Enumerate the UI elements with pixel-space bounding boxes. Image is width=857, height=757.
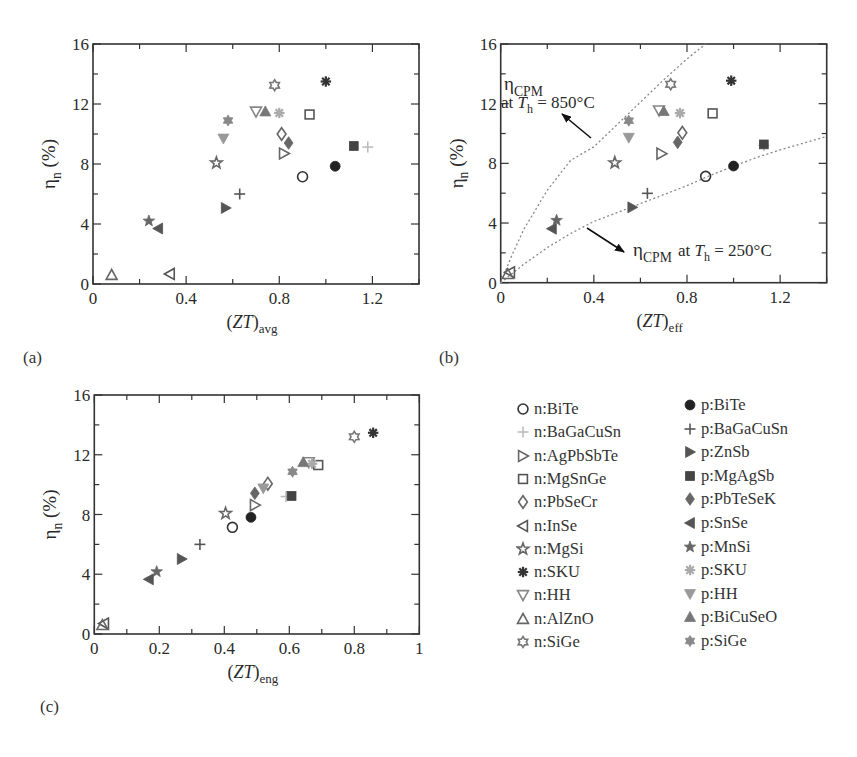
arrow-850C — [562, 114, 591, 138]
y-tick-label: 8 — [82, 506, 91, 525]
triangle-right-open-marker — [519, 450, 529, 461]
triangle-up-open-icon — [516, 608, 532, 630]
point-n-bagacusn — [362, 142, 373, 153]
legend-label: p:SKU — [701, 560, 747, 580]
legend-label: p:ZnSb — [701, 442, 750, 462]
x-axis-label: (ZT)eff — [637, 311, 684, 335]
ticks — [93, 44, 419, 284]
circle-filled-marker — [685, 400, 695, 410]
y-tick-label: 12 — [480, 95, 497, 114]
point-n-sige — [666, 79, 676, 90]
legend-label: n:AgPbSbTe — [534, 446, 618, 466]
y-tick-label: 0 — [488, 274, 497, 293]
point-p-bite — [246, 512, 256, 522]
point-p-bite — [729, 161, 739, 171]
legend-label: p:PbTeSeK — [701, 489, 776, 509]
legend-label: p:HH — [701, 584, 738, 604]
asterisk-icon — [683, 559, 699, 581]
plot-frame — [93, 44, 419, 284]
y-tick-label: 12 — [73, 446, 90, 465]
point-p-sige — [288, 466, 298, 477]
legend-p-column: p:BiTep:BaGaCuSnp:ZnSbp:MgAgSbp:PbTeSeKp… — [683, 394, 843, 654]
x-axis-label: (ZT)eng — [227, 662, 278, 686]
y-tick-label: 4 — [81, 215, 90, 234]
point-n-mgsnge — [305, 110, 314, 119]
triangle-right-filled-marker — [686, 447, 696, 458]
annotation-250C: ηCPM at Th = 250°C — [633, 239, 772, 265]
diamond-open-icon — [516, 491, 532, 513]
point-n-agpbsbte — [250, 500, 260, 511]
ticks — [501, 44, 827, 283]
star-open-marker — [517, 543, 529, 554]
triangle-right-open-icon — [516, 445, 532, 467]
point-p-pbtesek — [284, 137, 293, 150]
point-n-pbsecr — [678, 126, 687, 139]
x-tick-label: 0 — [496, 288, 505, 307]
y-tick-label: 16 — [72, 35, 89, 54]
star-open-icon — [516, 538, 532, 560]
panel-label-c: (c) — [40, 697, 59, 717]
hexagram-filled-icon — [683, 630, 699, 652]
point-n-mgsnge — [708, 109, 717, 118]
star-filled-icon — [683, 536, 699, 558]
figure: 00.40.81.20481216(ZT)avgηn (%) 00.40.81.… — [0, 0, 857, 757]
svg-text:ηn (%): ηn (%) — [39, 489, 65, 539]
x-tick-label: 0.2 — [149, 639, 170, 658]
x-tick-label: 1.2 — [362, 289, 383, 308]
legend: n:BiTen:BaGaCuSnn:AgPbSbTen:MgSnGen:PbSe… — [516, 398, 836, 658]
asterisk-marker — [518, 567, 528, 577]
point-p-pbtesek — [250, 487, 259, 500]
square-filled-icon — [683, 465, 699, 487]
point-n-sku — [726, 75, 736, 85]
y-axis-label: ηn (%) — [446, 138, 472, 188]
square-open-icon — [516, 468, 532, 490]
point-p-mnsi — [143, 215, 155, 226]
hexagram-open-marker — [518, 637, 528, 648]
square-open-marker — [519, 474, 528, 483]
legend-label: n:SKU — [534, 562, 580, 582]
plus-icon — [683, 418, 699, 440]
svg-text:at Th = 250°C: at Th = 250°C — [678, 241, 772, 264]
legend-label: n:PbSeCr — [534, 492, 597, 512]
legend-label: n:MgSi — [534, 539, 584, 559]
x-tick-label: 0.4 — [583, 288, 605, 307]
legend-label: p:BiTe — [701, 395, 746, 415]
point-n-pbsecr — [277, 128, 286, 141]
point-p-sige — [223, 115, 233, 126]
x-tick-label: 0.4 — [214, 639, 236, 658]
point-p-znsb — [628, 202, 638, 213]
point-p-mgagsb — [287, 492, 296, 501]
panel-c-plot: 00.20.40.60.810481216(ZT)engηn (%) — [0, 350, 470, 720]
y-tick-label: 4 — [82, 565, 91, 584]
point-p-mgagsb — [349, 142, 358, 151]
triangle-down-filled-icon — [683, 583, 699, 605]
triangle-left-open-marker — [518, 520, 528, 531]
triangle-up-filled-marker — [685, 612, 696, 622]
y-axis-label: ηn (%) — [39, 489, 65, 539]
legend-label: n:AlZnO — [534, 609, 594, 629]
cpm-curve-850C — [501, 44, 706, 283]
asterisk-icon — [516, 561, 532, 583]
hexagram-open-icon — [516, 631, 532, 653]
plot-frame — [501, 44, 827, 283]
legend-label: p:BiCuSeO — [701, 607, 777, 627]
x-tick-label: 0 — [90, 639, 99, 658]
legend-label: p:SnSe — [701, 513, 748, 533]
triangle-up-filled-icon — [683, 606, 699, 628]
y-tick-label: 16 — [480, 35, 497, 54]
panel-label-b: (b) — [439, 348, 459, 368]
point-n-sige — [270, 80, 280, 91]
star-filled-marker — [684, 541, 696, 552]
point-n-sige — [350, 431, 360, 442]
triangle-right-filled-icon — [683, 441, 699, 463]
plus-marker — [685, 423, 696, 434]
point-n-inse — [164, 268, 174, 279]
circle-filled-icon — [683, 394, 699, 416]
point-p-hh — [623, 133, 634, 143]
legend-n-column: n:BiTen:BaGaCuSnn:AgPbSbTen:MgSnGen:PbSe… — [516, 398, 676, 658]
point-p-sku — [307, 458, 317, 468]
y-tick-label: 4 — [488, 214, 497, 233]
point-p-snse — [153, 223, 163, 234]
plus-icon — [516, 421, 532, 443]
point-n-mgsi — [220, 507, 232, 518]
